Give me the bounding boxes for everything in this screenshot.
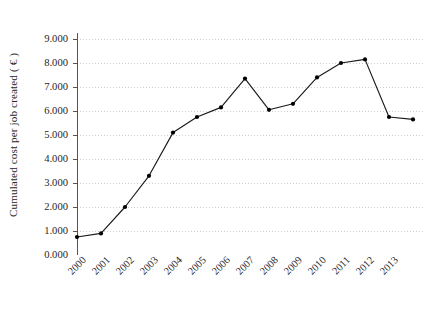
plot-area (68, 15, 425, 255)
y-tick-label: 3.000 (22, 178, 68, 189)
y-axis-ticks (73, 40, 78, 256)
data-markers (75, 57, 415, 239)
y-axis-tick-labels: 0.0001.0002.0003.0004.0005.0006.0007.000… (22, 0, 68, 310)
y-tick-label: 7.000 (22, 82, 68, 93)
y-tick-label: 5.000 (22, 130, 68, 141)
y-tick-label: 2.000 (22, 202, 68, 213)
line-chart: Cumulated cost per job created ( € ) 0.0… (0, 0, 433, 310)
y-tick-label: 1.000 (22, 226, 68, 237)
x-axis-tick-labels: 2000200120022003200420052006200720082009… (68, 255, 425, 310)
y-tick-label: 8.000 (22, 58, 68, 69)
axis-lines (78, 33, 424, 255)
y-tick-label: 9.000 (22, 34, 68, 45)
y-tick-label: 4.000 (22, 154, 68, 165)
plot-canvas (68, 15, 425, 255)
gridlines (77, 40, 425, 232)
y-axis-title-text: Cumulated cost per job created ( € ) (7, 53, 19, 217)
y-tick-label: 6.000 (22, 106, 68, 117)
y-tick-label: 0.000 (22, 250, 68, 261)
data-line (77, 59, 413, 237)
